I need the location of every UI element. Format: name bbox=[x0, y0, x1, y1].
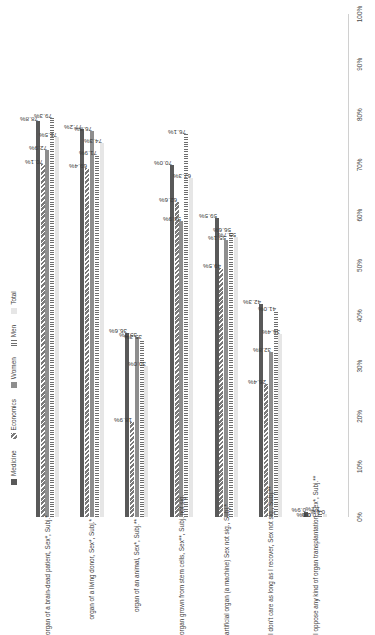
bar-value-label: 79.3% bbox=[34, 113, 52, 120]
category-label: organ of a brain-dead patient, Sex*, Sub… bbox=[44, 519, 51, 635]
bar-value-label: 36.4% bbox=[262, 328, 280, 335]
legend-swatch-icon bbox=[11, 479, 17, 485]
bar-medicine bbox=[36, 121, 40, 517]
x-tick-label: 0% bbox=[356, 512, 363, 521]
bar-group: 59.5%49.5%55.1%56.6%55.7% bbox=[215, 14, 239, 517]
category-label: I oppose any kind of organ transplantati… bbox=[313, 519, 320, 635]
bar-line: 69.4% bbox=[85, 14, 89, 517]
bar-line: 35.3% bbox=[140, 14, 144, 517]
bar-value-label: 62.6% bbox=[159, 197, 177, 204]
x-tick-label: 10% bbox=[356, 460, 363, 473]
x-tick-label: 50% bbox=[356, 259, 363, 272]
legend-item-men[interactable]: Men bbox=[10, 325, 17, 346]
bar-line: 77.2% bbox=[80, 14, 84, 517]
bar-value-label: 75.5% bbox=[39, 132, 57, 139]
bar-line: 58.9% bbox=[179, 14, 183, 517]
bar-value-label: 35.3% bbox=[124, 334, 142, 341]
bar-women bbox=[179, 221, 183, 517]
bar-line: 74.3% bbox=[100, 14, 104, 517]
bar-value-label: 74.3% bbox=[84, 138, 102, 145]
x-tick-label: 90% bbox=[356, 58, 363, 71]
legend-label: Women bbox=[10, 357, 17, 379]
legend-label: Total bbox=[10, 291, 17, 305]
bar-economics bbox=[130, 422, 134, 517]
bar-economics bbox=[85, 168, 89, 517]
bar-line: 30.0% bbox=[144, 14, 148, 517]
category-label: organ grown from stem cells, Sex**, Subj… bbox=[178, 519, 185, 635]
bar-group: 78.8%70.1%72.9%79.3%75.5% bbox=[36, 14, 60, 517]
x-tick-label: 100% bbox=[356, 6, 363, 22]
bar-value-label: 76.1% bbox=[168, 129, 186, 136]
legend-item-medicine[interactable]: Medicine bbox=[10, 450, 17, 485]
bar-value-label: 67.3% bbox=[173, 173, 191, 180]
bar-total bbox=[144, 366, 148, 517]
bar-line: 75.5% bbox=[55, 14, 59, 517]
bar-men bbox=[50, 118, 54, 517]
bar-value-label: 41.0% bbox=[258, 305, 276, 312]
bar-line: 62.6% bbox=[175, 14, 179, 517]
bar-line: 32.8% bbox=[269, 14, 273, 517]
bar-women bbox=[45, 150, 49, 517]
bar-economics bbox=[219, 268, 223, 517]
bar-medicine bbox=[80, 129, 84, 517]
x-tick-label: 60% bbox=[356, 209, 363, 222]
bar-group: 70.0%62.6%58.9%76.1%67.3% bbox=[170, 14, 194, 517]
category-label: I don't care as long as I recover, Sex n… bbox=[268, 519, 275, 635]
x-tick-label: 30% bbox=[356, 360, 363, 373]
bar-total bbox=[189, 178, 193, 517]
bar-value-label: 70.1% bbox=[24, 159, 42, 166]
bar-line: 36.6% bbox=[125, 14, 129, 517]
bar-line: 70.1% bbox=[41, 14, 45, 517]
bar-line: 35.7% bbox=[135, 14, 139, 517]
bar-line: 0.9% bbox=[304, 14, 308, 517]
bar-men bbox=[95, 155, 99, 517]
category-label: organ of an animal, Sex*, Subj.** bbox=[134, 519, 141, 635]
bar-men bbox=[184, 134, 188, 517]
bar-value-label: 71.9% bbox=[79, 150, 97, 157]
bar-line: 55.1% bbox=[224, 14, 228, 517]
bar-line: 42.3% bbox=[259, 14, 263, 517]
bar-line: 71.9% bbox=[95, 14, 99, 517]
bar-value-label: 72.9% bbox=[29, 145, 47, 152]
bar-value-label: 70.0% bbox=[154, 159, 172, 166]
bar-line: 55.7% bbox=[234, 14, 238, 517]
legend-swatch-icon bbox=[11, 340, 17, 346]
bar-total bbox=[55, 137, 59, 517]
rotated-figure-wrapper: MedicineEconomicsWomenMenTotal 78.8%70.1… bbox=[0, 0, 375, 635]
bar-women bbox=[224, 240, 228, 517]
bar-group: 36.6%18.9%35.7%35.3%30.0% bbox=[125, 14, 149, 517]
bar-value-label: 58.9% bbox=[163, 215, 181, 222]
bar-line: 0.6% bbox=[323, 14, 327, 517]
bar-line: 26.4% bbox=[264, 14, 268, 517]
bar-value-label: 49.5% bbox=[203, 263, 221, 270]
bar-value-label: 30.0% bbox=[128, 361, 146, 368]
bar-line: 78.8% bbox=[36, 14, 40, 517]
bar-value-label: 55.7% bbox=[218, 231, 236, 238]
legend-item-women[interactable]: Women bbox=[10, 357, 17, 388]
legend-label: Men bbox=[10, 325, 17, 337]
x-tick-label: 80% bbox=[356, 108, 363, 121]
bar-total bbox=[278, 334, 282, 517]
bar-economics bbox=[175, 202, 179, 517]
bar-men bbox=[229, 232, 233, 517]
legend-item-total[interactable]: Total bbox=[10, 291, 17, 314]
bar-line: 76.1% bbox=[184, 14, 188, 517]
bar-line: 0.0% bbox=[309, 14, 313, 517]
bar-economics bbox=[41, 164, 45, 517]
x-tick-label: 20% bbox=[356, 410, 363, 423]
bar-line: 79.3% bbox=[50, 14, 54, 517]
plot-area: 78.8%70.1%72.9%79.3%75.5%77.2%69.4%76.8%… bbox=[18, 14, 331, 517]
bar-line: 76.8% bbox=[90, 14, 94, 517]
bar-women bbox=[90, 131, 94, 517]
x-tick-label: 70% bbox=[356, 159, 363, 172]
legend-label: Medicine bbox=[10, 450, 17, 476]
bar-line: 41.0% bbox=[274, 14, 278, 517]
bar-total bbox=[234, 237, 238, 517]
category-label: organ of a living donor, Sex*, Subj.* bbox=[89, 519, 96, 635]
legend-item-economics[interactable]: Economics bbox=[10, 399, 17, 439]
bar-medicine bbox=[259, 304, 263, 517]
bar-line: 18.9% bbox=[130, 14, 134, 517]
bar-line: 0.0% bbox=[314, 14, 318, 517]
bar-group: 77.2%69.4%76.8%71.9%74.3% bbox=[80, 14, 104, 517]
bar-chart-figure: MedicineEconomicsWomenMenTotal 78.8%70.1… bbox=[0, 0, 375, 635]
